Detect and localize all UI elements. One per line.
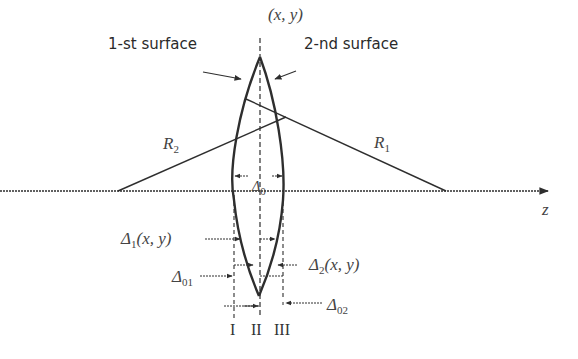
delta1-label: Δ1(x, y) [121, 230, 171, 250]
surface-1-label: 1-st surface [108, 37, 197, 52]
radius-1-line [246, 99, 446, 191]
radius-1-label: R1 [374, 134, 390, 154]
plane-II-label: II [251, 322, 262, 338]
delta01-label: Δ01 [172, 268, 193, 288]
lens-diagram [0, 0, 578, 359]
plane-III-label: III [274, 322, 290, 338]
radius-2-label: R2 [163, 135, 179, 155]
plane-I-label: I [230, 322, 235, 338]
delta2-label: Δ2(x, y) [309, 256, 359, 276]
point-label: (x, y) [268, 6, 303, 23]
axis-z-label: z [542, 201, 549, 218]
surface-2-label: 2-nd surface [304, 37, 398, 52]
center-thickness-label: Δ0 [252, 180, 266, 197]
delta02-label: Δ02 [327, 296, 348, 316]
